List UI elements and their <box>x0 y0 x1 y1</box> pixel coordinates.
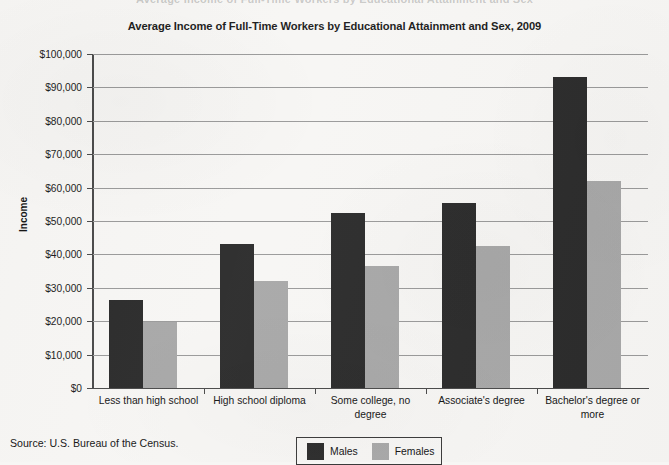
x-axis-category-label: High school diploma <box>204 394 315 408</box>
y-axis-tick-label: $70,000 <box>45 149 82 160</box>
legend-swatch-males <box>307 443 324 460</box>
legend-label-females: Females <box>395 446 435 457</box>
y-axis-tick-label: $100,000 <box>40 49 83 60</box>
y-axis-tick-label: $10,000 <box>45 349 82 360</box>
x-axis-category-label: Bachelor's degree or more <box>537 394 648 421</box>
legend-item: Males <box>307 443 358 460</box>
bar-females <box>476 246 510 388</box>
bar-group <box>426 54 537 388</box>
legend-swatch-females <box>372 443 389 460</box>
y-axis-tick-label: $80,000 <box>45 115 82 126</box>
bar-group <box>537 54 648 388</box>
page-header-bleed: Average Income of Full-Time Workers by E… <box>0 0 669 13</box>
page-header-bleed-text: Average Income of Full-Time Workers by E… <box>0 0 669 5</box>
x-axis-category-label: Some college, no degree <box>315 394 426 421</box>
chart-title: Average Income of Full-Time Workers by E… <box>0 20 669 32</box>
legend-item: Females <box>372 443 435 460</box>
bar-females <box>143 322 177 388</box>
bar-males <box>331 213 365 388</box>
x-axis-category-label: Less than high school <box>93 394 204 408</box>
bar-males <box>553 77 587 388</box>
y-axis-tick-label: $90,000 <box>45 82 82 93</box>
chart-legend: Males Females <box>296 437 442 465</box>
y-axis-tick <box>87 388 93 389</box>
bar-males <box>442 203 476 388</box>
bar-females <box>365 266 399 388</box>
y-axis-tick-label: $50,000 <box>45 216 82 227</box>
y-axis-title: Income <box>18 197 29 232</box>
x-axis-category-label: Associate's degree <box>426 394 537 408</box>
bar-females <box>254 281 288 388</box>
bar-females <box>587 181 621 388</box>
bar-group <box>204 54 315 388</box>
bar-group <box>315 54 426 388</box>
bar-males <box>220 244 254 388</box>
bar-males <box>109 300 143 388</box>
source-note: Source: U.S. Bureau of the Census. <box>10 437 178 449</box>
y-axis-tick-label: $0 <box>71 383 82 394</box>
plot-area: $100,000$90,000$80,000$70,000$60,000$50,… <box>93 54 648 388</box>
y-axis-tick-label: $20,000 <box>45 316 82 327</box>
y-axis-tick-label: $30,000 <box>45 282 82 293</box>
x-axis-category-labels: Less than high schoolHigh school diploma… <box>93 394 649 434</box>
y-axis-tick-label: $60,000 <box>45 182 82 193</box>
legend-label-males: Males <box>330 446 358 457</box>
bar-group <box>93 54 204 388</box>
y-axis-tick-label: $40,000 <box>45 249 82 260</box>
